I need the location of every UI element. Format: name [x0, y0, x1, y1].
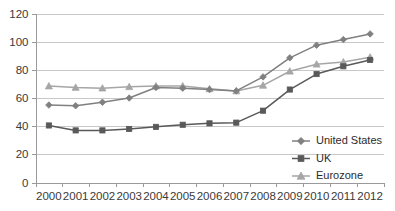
legend-item-uk[interactable]: UK	[292, 152, 332, 164]
datapoint-uk-2004	[153, 124, 158, 129]
datapoint-united-states-2004	[153, 84, 160, 91]
x-tick-label-2000: 2000	[36, 190, 62, 202]
series-uk	[46, 57, 372, 133]
y-tick-label-40: 40	[16, 120, 29, 132]
x-tick-label-2007: 2007	[223, 190, 249, 202]
y-tick-labels: 020406080100120	[9, 8, 28, 189]
x-tick-label-2006: 2006	[197, 190, 223, 202]
datapoint-uk-2002	[100, 128, 105, 133]
x-tick-label-2001: 2001	[63, 190, 89, 202]
x-tick-label-2009: 2009	[277, 190, 303, 202]
datapoint-united-states-2000	[46, 102, 53, 109]
y-tick-label-60: 60	[16, 92, 29, 104]
y-tick-label-100: 100	[9, 36, 28, 48]
y-tick-label-0: 0	[22, 177, 28, 189]
legend-label-uk: UK	[316, 152, 332, 164]
x-tick-label-2005: 2005	[170, 190, 196, 202]
datapoint-uk-2009	[287, 87, 292, 92]
x-tick-labels: 2000200120022003200420052006200720082009…	[36, 190, 383, 202]
series-line-united-states	[49, 34, 370, 106]
datapoint-united-states-2003	[126, 95, 133, 102]
datapoint-united-states-2001	[72, 102, 79, 109]
series-layer	[45, 31, 373, 133]
x-tick-label-2011: 2011	[331, 190, 356, 202]
legend-label-united-states: United States	[316, 134, 383, 146]
x-tick-label-2008: 2008	[250, 190, 276, 202]
datapoint-uk-2007	[234, 120, 239, 125]
y-tick-label-120: 120	[9, 8, 28, 20]
datapoint-uk-2010	[314, 71, 319, 76]
legend-item-united-states[interactable]: United States	[292, 134, 383, 146]
line-chart: 020406080100120 200020012002200320042005…	[0, 0, 395, 211]
legend-item-eurozone[interactable]: Eurozone	[292, 169, 363, 181]
datapoint-uk-2000	[46, 123, 51, 128]
chart-canvas: 020406080100120 200020012002200320042005…	[0, 0, 395, 211]
datapoint-united-states-2002	[99, 99, 106, 106]
datapoint-uk-2001	[73, 128, 78, 133]
datapoint-uk-2003	[127, 126, 132, 131]
legend-marker-diamond-icon	[297, 137, 304, 144]
datapoint-united-states-2012	[367, 31, 374, 38]
y-tick-label-80: 80	[16, 64, 29, 76]
datapoint-uk-2008	[260, 108, 265, 113]
x-tick-label-2012: 2012	[357, 190, 383, 202]
datapoint-uk-2012	[368, 57, 373, 62]
x-tick-label-2002: 2002	[90, 190, 116, 202]
chart-legend: United StatesUKEurozone	[292, 134, 383, 181]
x-tick-label-2010: 2010	[304, 190, 330, 202]
datapoint-uk-2006	[207, 121, 212, 126]
datapoint-uk-2011	[341, 64, 346, 69]
legend-label-eurozone: Eurozone	[316, 169, 363, 181]
y-axis	[32, 14, 36, 184]
datapoint-uk-2005	[180, 122, 185, 127]
x-tick-label-2003: 2003	[116, 190, 142, 202]
y-tick-label-20: 20	[16, 148, 29, 160]
x-tick-label-2004: 2004	[143, 190, 169, 202]
datapoint-eurozone-2008	[260, 82, 267, 88]
gridlines	[36, 15, 384, 184]
legend-marker-square-icon	[298, 156, 304, 162]
datapoint-united-states-2011	[340, 36, 347, 43]
